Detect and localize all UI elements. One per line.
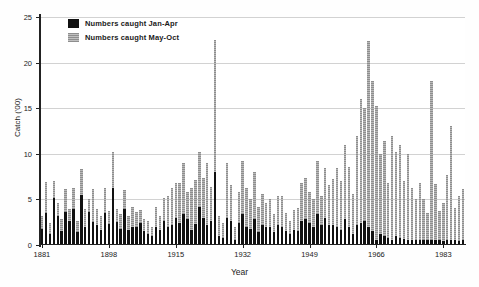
chart-legend: Numbers caught Jan-Apr Numbers caught Ma…	[68, 18, 179, 46]
bar-segment-jan-apr	[108, 224, 110, 245]
bar-segment-jan-apr	[336, 227, 338, 245]
bar-segment-jan-apr	[84, 227, 86, 245]
bar-1934	[249, 199, 251, 245]
y-tick-label-0: 0	[28, 241, 32, 250]
bar-1953	[324, 168, 326, 245]
bar-segment-jan-apr	[104, 213, 106, 245]
bar-segment-may-oct	[127, 216, 129, 231]
bar-segment-jan-apr	[360, 223, 362, 245]
bar-segment-jan-apr	[155, 227, 157, 245]
bar-1936	[257, 207, 259, 245]
bar-1966	[375, 106, 377, 245]
bar-1974	[407, 154, 409, 245]
bar-1976	[415, 199, 417, 246]
bar-segment-may-oct	[143, 219, 145, 232]
bar-segment-jan-apr	[167, 227, 169, 245]
bar-1963	[363, 108, 365, 245]
bar-1956	[336, 168, 338, 245]
bar-1970	[391, 136, 393, 245]
bar-segment-may-oct	[131, 207, 133, 227]
bar-1950	[312, 199, 314, 245]
bar-1894	[92, 189, 94, 245]
bar-segment-jan-apr	[226, 218, 228, 245]
bar-segment-jan-apr	[64, 212, 66, 245]
bar-segment-may-oct	[190, 188, 192, 230]
y-tick-label-25: 25	[24, 13, 32, 22]
bar-1979	[426, 213, 428, 245]
y-tick-mark-5	[36, 199, 39, 200]
bar-segment-may-oct	[167, 196, 169, 227]
bar-1962	[360, 99, 362, 245]
bar-1972	[399, 145, 401, 245]
bar-segment-may-oct	[273, 214, 275, 232]
bar-1949	[308, 192, 310, 245]
bar-segment-may-oct	[293, 210, 295, 230]
bar-segment-jan-apr	[127, 230, 129, 245]
y-tick-label-20: 20	[24, 58, 32, 67]
bar-segment-may-oct	[210, 187, 212, 222]
bar-segment-may-oct	[112, 152, 114, 188]
bar-1982	[438, 211, 440, 245]
bar-segment-may-oct	[383, 141, 385, 236]
bar-1903	[127, 216, 129, 245]
bar-segment-may-oct	[438, 211, 440, 240]
bar-segment-may-oct	[454, 208, 456, 241]
x-tick-label-1881: 1881	[22, 250, 62, 259]
bar-1910	[155, 207, 157, 245]
bar-segment-may-oct	[324, 168, 326, 217]
bar-1898	[108, 211, 110, 245]
bar-segment-may-oct	[139, 210, 141, 223]
bar-segment-jan-apr	[297, 231, 299, 245]
bar-1890	[76, 221, 78, 245]
bar-segment-jan-apr	[112, 188, 114, 245]
bar-segment-jan-apr	[57, 216, 59, 245]
bar-1933	[245, 188, 247, 245]
bar-1931	[238, 192, 240, 245]
bar-segment-may-oct	[360, 99, 362, 223]
bar-1969	[387, 183, 389, 245]
bar-1984	[446, 175, 448, 245]
bar-segment-may-oct	[60, 219, 62, 232]
bar-segment-may-oct	[265, 203, 267, 227]
bar-segment-jan-apr	[285, 231, 287, 245]
bar-1919	[190, 188, 192, 245]
bar-segment-may-oct	[289, 221, 291, 234]
bar-segment-jan-apr	[53, 198, 55, 245]
bar-1964	[367, 41, 369, 245]
bar-segment-may-oct	[363, 108, 365, 221]
bar-1908	[147, 221, 149, 245]
bar-segment-may-oct	[411, 188, 413, 239]
bar-segment-jan-apr	[344, 219, 346, 245]
bar-segment-may-oct	[88, 199, 90, 212]
bar-segment-may-oct	[155, 207, 157, 227]
bar-1897	[104, 188, 106, 245]
bar-segment-may-oct	[222, 223, 224, 238]
bar-segment-may-oct	[175, 183, 177, 218]
bar-1925	[214, 40, 216, 245]
bar-1939	[269, 199, 271, 245]
bar-1941	[277, 196, 279, 245]
bar-segment-may-oct	[249, 199, 251, 228]
bar-1930	[234, 227, 236, 245]
bar-segment-may-oct	[352, 194, 354, 234]
bar-1960	[352, 194, 354, 245]
bar-segment-jan-apr	[348, 227, 350, 245]
bar-segment-may-oct	[92, 189, 94, 222]
bar-segment-jan-apr	[332, 225, 334, 245]
bar-segment-may-oct	[442, 203, 444, 241]
bar-segment-jan-apr	[304, 219, 306, 245]
bar-segment-jan-apr	[116, 222, 118, 245]
bar-1884	[53, 181, 55, 245]
chart-figure: 0510152025 Catch ('00) 18811898191519321…	[0, 0, 479, 287]
bar-segment-jan-apr	[245, 227, 247, 245]
bar-1971	[395, 152, 397, 245]
bar-segment-jan-apr	[68, 221, 70, 245]
bar-1961	[356, 136, 358, 245]
bar-segment-may-oct	[119, 214, 121, 229]
bar-segment-may-oct	[218, 216, 220, 236]
bar-segment-may-oct	[297, 208, 299, 232]
bar-segment-may-oct	[344, 145, 346, 220]
bar-segment-may-oct	[371, 81, 373, 231]
bar-1951	[316, 161, 318, 245]
bar-segment-jan-apr	[80, 195, 82, 245]
